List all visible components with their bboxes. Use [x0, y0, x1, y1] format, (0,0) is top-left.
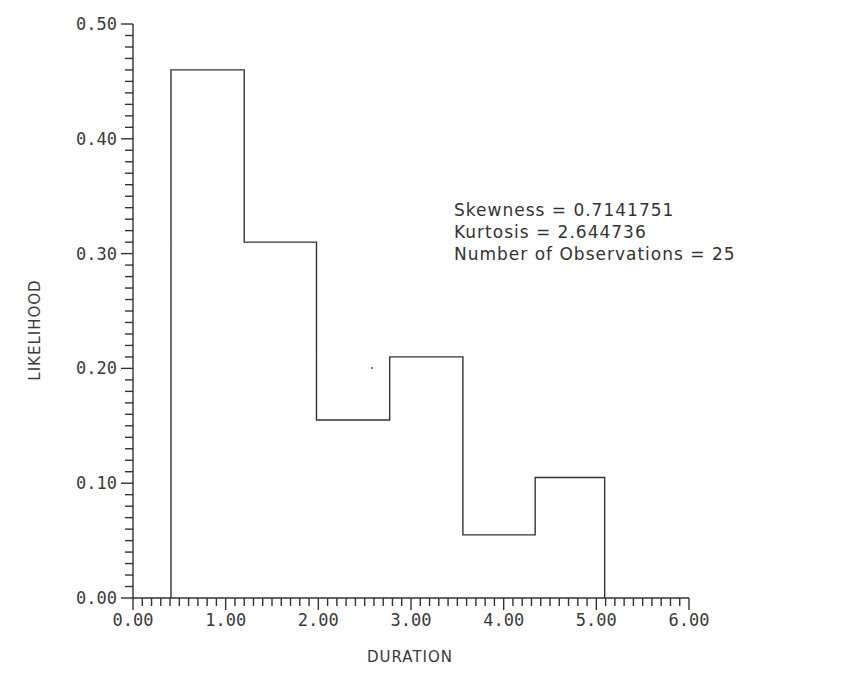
observations-label: Number of Observations = 25	[454, 244, 736, 264]
y-tick-label: 0.00	[76, 588, 117, 608]
y-axis-title: LIKELIHOOD	[26, 279, 44, 380]
stray-mark	[371, 367, 373, 369]
x-tick-label: 4.00	[483, 610, 524, 630]
x-tick-label: 1.00	[205, 610, 246, 630]
histogram-bars	[171, 70, 605, 598]
y-tick-label: 0.30	[76, 244, 117, 264]
histogram-outline	[171, 70, 605, 598]
skewness-label: Skewness = 0.7141751	[454, 200, 674, 220]
kurtosis-label: Kurtosis = 2.644736	[454, 222, 647, 242]
histogram-chart: 0.001.002.003.004.005.006.000.000.100.20…	[0, 0, 844, 684]
x-tick-label: 5.00	[576, 610, 617, 630]
y-tick-label: 0.10	[76, 473, 117, 493]
y-tick-label: 0.50	[76, 14, 117, 34]
y-tick-label: 0.40	[76, 129, 117, 149]
x-axis-title: DURATION	[367, 648, 453, 666]
stats-annotation: Skewness = 0.7141751 Kurtosis = 2.644736…	[454, 200, 736, 264]
x-tick-label: 6.00	[669, 610, 710, 630]
x-tick-label: 2.00	[298, 610, 339, 630]
x-tick-label: 3.00	[391, 610, 432, 630]
x-tick-label: 0.00	[113, 610, 154, 630]
y-tick-label: 0.20	[76, 358, 117, 378]
